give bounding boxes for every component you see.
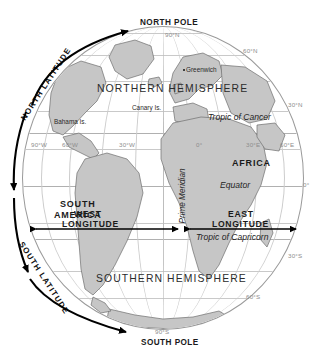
land-europe bbox=[169, 53, 223, 103]
tropic-of-cancer-label: Tropic of Cancer bbox=[208, 112, 271, 122]
africa-label: AFRICA bbox=[232, 158, 271, 168]
lat-tick-30s: 30°S bbox=[288, 252, 302, 259]
land-antarctica bbox=[107, 309, 229, 329]
prime-meridian-label: Prime Meridian bbox=[178, 168, 187, 223]
globe-sphere bbox=[22, 26, 304, 330]
tropic-of-capricorn-label: Tropic of Capricorn bbox=[196, 232, 268, 242]
lat-tick-30n: 30°N bbox=[288, 101, 303, 108]
greenwich-label: Greenwich bbox=[186, 66, 217, 73]
east-longitude-label-line2: LONGITUDE bbox=[212, 219, 269, 229]
north-pole-label: NORTH POLE bbox=[140, 18, 198, 27]
east-longitude-label-line1: EAST bbox=[228, 209, 254, 219]
south-america-label-line1: SOUTH bbox=[60, 199, 96, 209]
lat-tick-90n: 90°N bbox=[165, 31, 180, 38]
west-longitude-label-line1: WEST bbox=[74, 209, 102, 219]
globe-diagram: 90°N 60°N 30°N 0° 30°S 60°S 90°S 90°W 60… bbox=[0, 0, 324, 355]
lng-tick-30w: 30°W bbox=[119, 141, 135, 148]
northern-hemisphere-label: NORTHERN HEMISPHERE bbox=[97, 83, 248, 94]
land-antarctic-peninsula bbox=[91, 297, 111, 313]
southern-hemisphere-label: SOUTHERN HEMISPHERE bbox=[96, 273, 247, 284]
lat-tick-60n: 60°N bbox=[243, 47, 258, 54]
west-longitude-label-line2: LONGITUDE bbox=[62, 219, 119, 229]
lat-tick-90s: 90°S bbox=[155, 328, 169, 335]
lat-tick-0: 0° bbox=[303, 181, 309, 188]
lng-tick-90w: 90°W bbox=[31, 141, 47, 148]
canary-islands-label: Canary Is. bbox=[132, 104, 161, 111]
lat-tick-60s: 60°S bbox=[246, 293, 260, 300]
lng-tick-30e: 30°E bbox=[246, 141, 260, 148]
equator-label: Equator bbox=[220, 180, 250, 190]
south-pole-label: SOUTH POLE bbox=[141, 338, 199, 347]
land-greenland bbox=[109, 40, 154, 79]
lng-tick-60e: 60°E bbox=[280, 141, 294, 148]
lng-tick-0: 0° bbox=[196, 141, 202, 148]
lng-tick-60w: 60°W bbox=[62, 141, 78, 148]
bahama-islands-label: Bahama Is. bbox=[54, 118, 86, 125]
